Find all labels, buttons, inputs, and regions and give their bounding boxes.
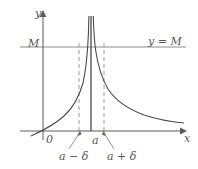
curve-right-branch [93,16,184,123]
a-plus-delta-label: a + δ [107,151,136,162]
point-a-label: a [92,135,99,146]
y-axis-label: y [35,8,41,19]
curve-left-branch [31,16,89,136]
x-axis-label: x [184,133,190,144]
figure-canvas [0,0,198,169]
origin-label: 0 [46,134,53,145]
a-minus-delta-label: a − δ [59,151,88,162]
y-equals-m-label: y = M [148,36,182,47]
infinite-limit-figure: y x M y = M 0 a a − δ a + δ [0,0,198,169]
m-threshold-label: M [28,38,39,49]
